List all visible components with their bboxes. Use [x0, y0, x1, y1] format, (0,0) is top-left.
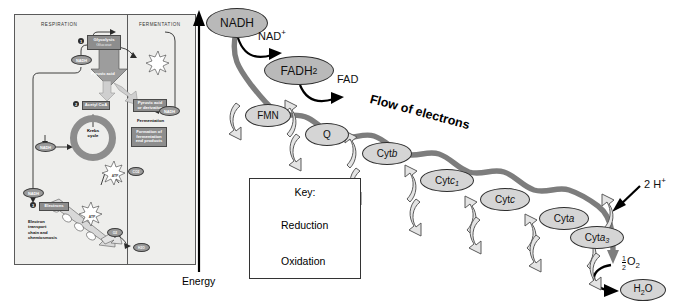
nad-plus-label: NAD+ [258, 28, 286, 42]
key-box: Key: Reduction Oxidation [249, 178, 361, 279]
carrier-q: Q [305, 123, 349, 146]
fadh2-to-fad-arrow [300, 85, 334, 101]
carrier-cyt-a: Cyt a [539, 207, 589, 230]
proton-label: 2 H+ [644, 176, 666, 190]
nadh-label: NADH [220, 16, 254, 30]
fadh2-label: FADH [281, 64, 313, 78]
carrier-fmn: FMN [245, 104, 291, 127]
carrier-cyt-a3: Cyt a3 [570, 226, 624, 249]
carrier-cyt-b: Cyt b [362, 142, 412, 165]
figure-canvas: RESPIRATION FERMENTATION [0, 0, 690, 307]
energy-axis-arrow [193, 10, 205, 272]
oxygen-numerator: 1 [622, 255, 626, 262]
key-oxidation-label: Oxidation [281, 255, 325, 267]
key-reduction-label: Reduction [281, 219, 328, 231]
oxygen-denominator: 2 [622, 262, 626, 271]
fadh2-oval: FADH2 [264, 56, 334, 85]
water-oval: H2O [620, 279, 666, 301]
energy-axis-label: Energy [182, 275, 215, 287]
key-title: Key: [250, 186, 360, 198]
carrier-cyt-c1: Cyt c1 [420, 169, 474, 192]
fad-label: FAD [337, 73, 358, 85]
ribbon-arrowhead [607, 250, 619, 264]
carrier-cyt-c: Cyt c [480, 188, 530, 211]
half-oxygen-label: 1 2 O2 [622, 255, 640, 271]
